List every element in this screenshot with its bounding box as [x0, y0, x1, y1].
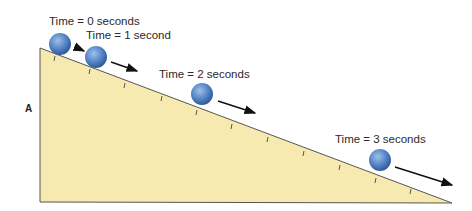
arrow-t1 [111, 62, 137, 71]
ball-t0 [49, 33, 71, 55]
ramp-diagram [0, 0, 472, 211]
arrow-t0 [75, 47, 84, 51]
arrow-t3 [395, 167, 452, 185]
time-label-2: Time = 2 seconds [159, 68, 250, 80]
time-label-3: Time = 3 seconds [335, 133, 426, 145]
ball-t2 [191, 83, 213, 105]
time-label-1: Time = 1 second [86, 29, 171, 41]
ball-t3 [369, 149, 391, 171]
ball-t1 [85, 46, 107, 68]
side-label-a: A [25, 103, 32, 114]
arrow-t2 [218, 101, 255, 113]
time-label-0: Time = 0 seconds [49, 15, 140, 27]
